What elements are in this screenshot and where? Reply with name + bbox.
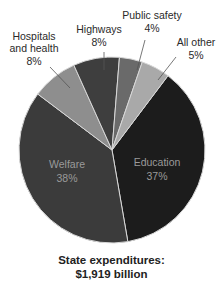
pie-chart: Hospitals and health 8% Highways 8% Publ… [0,0,223,281]
chart-caption-line2: $1,919 billion [0,267,223,281]
label-education-pct: 37% [146,170,167,182]
label-education: Education [134,156,181,168]
label-highways-pct: 8% [91,36,106,48]
label-public-safety-pct: 4% [144,22,159,34]
chart-caption-line1: State expenditures: [0,253,223,267]
label-welfare-pct: 38% [56,172,77,184]
label-all-other-pct: 5% [188,49,203,61]
label-hospitals-line2: and health [9,42,58,54]
label-hospitals-line1: Hospitals [12,30,55,42]
label-public-safety: Public safety [122,9,182,21]
pie-slices [19,57,205,243]
label-highways: Highways [76,23,122,35]
label-all-other: All other [177,36,216,48]
label-welfare: Welfare [49,158,85,170]
label-hospitals-pct: 8% [26,55,41,67]
